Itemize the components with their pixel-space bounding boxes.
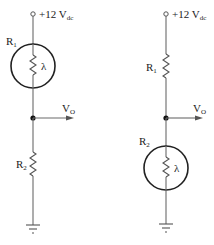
r2-label: R2 (16, 158, 27, 172)
ground-icon (159, 224, 173, 232)
resistor-r1-zigzag-icon (163, 54, 169, 78)
r1-label: R1 (146, 61, 157, 75)
arrow-right-icon (195, 116, 203, 121)
photoresistor-r1: λ (11, 44, 55, 88)
ground-icon (26, 225, 40, 233)
supply-terminal-icon (31, 12, 35, 16)
supply-terminal-icon (164, 12, 168, 16)
supply-label: +12 Vdc (39, 8, 73, 22)
arrow-right-icon (66, 116, 74, 121)
output-label: VO (193, 102, 206, 116)
photoresistor-r2: λ (144, 146, 188, 190)
r2-label: R2 (139, 135, 150, 149)
output-label: VO (62, 102, 75, 116)
right-circuit: +12 Vdc R1 VO λ R2 (139, 8, 206, 232)
resistor-r2-zigzag-icon (30, 152, 36, 176)
supply-label: +12 Vdc (172, 8, 206, 22)
r1-label: R1 (6, 35, 17, 49)
left-circuit: +12 Vdc λ R1 VO R2 (6, 8, 75, 233)
resistor-zigzag-icon (163, 157, 169, 177)
lambda-symbol: λ (41, 60, 47, 72)
lambda-symbol: λ (174, 162, 180, 174)
circuit-diagram: +12 Vdc λ R1 VO R2 (0, 0, 214, 245)
resistor-zigzag-icon (30, 55, 36, 75)
